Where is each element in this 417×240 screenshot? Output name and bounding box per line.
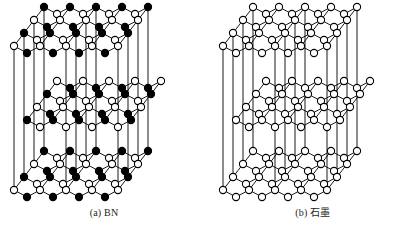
bn-structure-svg xyxy=(0,0,208,205)
figure-root: (a) BN (b) 石墨 xyxy=(0,0,417,240)
graphite-structure-svg xyxy=(209,0,417,205)
graphite-crystal-diagram xyxy=(209,0,417,205)
panel-bn: (a) BN xyxy=(0,0,208,240)
caption-bn: (a) BN xyxy=(0,206,208,220)
caption-graphite: (b) 石墨 xyxy=(209,206,417,220)
bn-crystal-diagram xyxy=(0,0,208,205)
panel-graphite: (b) 石墨 xyxy=(209,0,417,240)
